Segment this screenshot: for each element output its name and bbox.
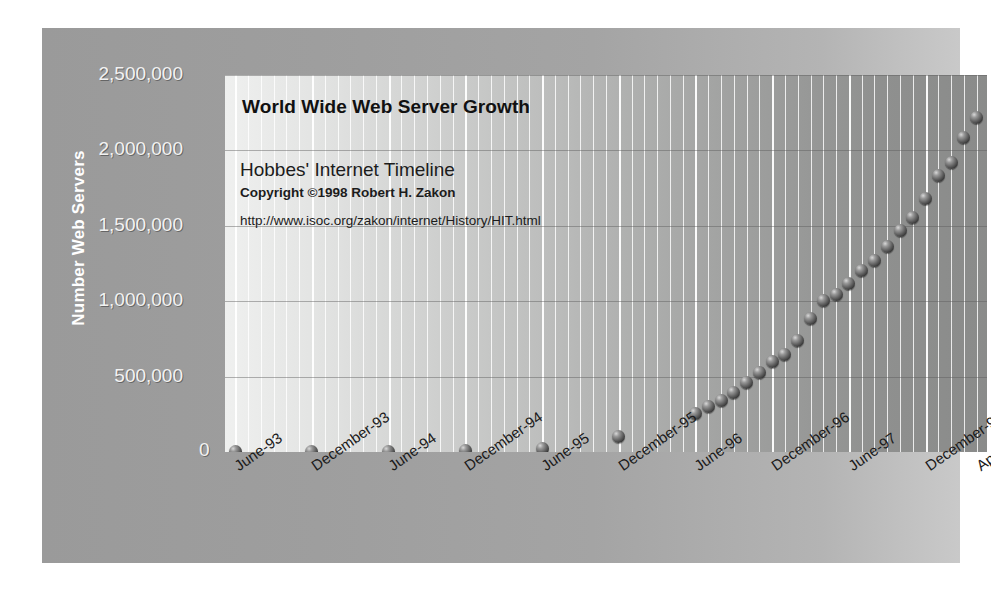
gridline-vertical [836,75,837,452]
gridline-vertical [593,75,594,452]
gridline-vertical [542,75,544,452]
gridline-vertical [350,75,351,452]
data-point [830,288,843,301]
annotation-copyright: Copyright ©1998 Robert H. Zakon [240,185,455,200]
gridline-vertical [338,75,339,452]
data-point [817,294,830,307]
data-point [868,254,881,267]
gridline-vertical [568,75,569,452]
gridline-vertical [900,75,901,452]
gridline-vertical [389,75,391,452]
gridline-vertical [440,75,441,452]
gridline-vertical [785,75,786,452]
gridline-vertical [798,75,799,452]
y-axis-tick-label: 1,000,000 [53,289,183,311]
gridline-vertical [811,75,812,452]
gridline-vertical [478,75,479,452]
y-axis-tick-label-zero: 0 [199,439,210,461]
data-point [229,445,242,452]
gridline-vertical [504,75,505,452]
gridline-vertical [414,75,415,452]
data-point [894,224,907,237]
gridline-vertical [619,75,621,452]
gridline-horizontal [225,75,987,76]
data-point [727,386,740,399]
gridline-vertical [376,75,377,452]
data-point [305,445,318,452]
gridline-vertical [657,75,658,452]
gridline-vertical [325,75,326,452]
data-point [715,394,728,407]
data-point [932,169,945,182]
gridline-vertical [632,75,633,452]
annotation-source-name: Hobbes' Internet Timeline [240,159,455,181]
gridline-horizontal [225,150,987,151]
gridline-vertical [235,75,237,452]
gridline-vertical [299,75,300,452]
data-point [778,348,791,361]
data-point [804,312,817,325]
gridline-vertical [938,75,939,452]
gridline-vertical [747,75,748,452]
data-point [881,240,894,253]
gridline-vertical [695,75,697,452]
gridline-vertical [670,75,671,452]
gridline-vertical [286,75,287,452]
data-point [766,355,779,368]
data-point [945,156,958,169]
gridline-vertical [401,75,402,452]
y-axis-tick-label: 2,000,000 [53,138,183,160]
plot-area [225,75,987,452]
gridline-vertical [683,75,684,452]
gridline-vertical [849,75,851,452]
gridline-vertical [363,75,364,452]
y-axis-tick-label: 500,000 [53,365,183,387]
data-point [740,376,753,389]
data-point [855,264,868,277]
gridline-vertical [491,75,492,452]
y-axis-tick-label: 2,500,000 [53,63,183,85]
y-axis-tick-label: 1,500,000 [53,214,183,236]
gridline-vertical [887,75,888,452]
gridline-vertical [248,75,249,452]
gridline-vertical [823,75,824,452]
annotation-url: http://www.isoc.org/zakon/internet/Histo… [240,213,541,228]
data-point [970,111,983,124]
gridline-vertical [453,75,454,452]
gridline-vertical [977,75,978,452]
data-point [919,192,932,205]
gridline-vertical [772,75,774,452]
gridline-vertical [261,75,262,452]
gridline-vertical [759,75,760,452]
data-point [536,442,549,452]
gridline-vertical [274,75,275,452]
data-point [382,445,395,452]
gridline-vertical [951,75,952,452]
data-point [791,334,804,347]
gridline-vertical [517,75,518,452]
data-point [702,400,715,413]
gridline-vertical [465,75,467,452]
chart-figure: Number Web Servers 2,500,0002,000,0001,5… [0,0,991,591]
gridline-vertical [529,75,530,452]
gridline-vertical [644,75,645,452]
gridline-vertical [913,75,914,452]
gridline-horizontal [225,301,987,302]
chart-frame: Number Web Servers 2,500,0002,000,0001,5… [42,28,960,563]
data-point [842,277,855,290]
gridline-vertical [926,75,928,452]
gridline-vertical [708,75,709,452]
gridline-vertical [606,75,607,452]
gridline-vertical [312,75,314,452]
data-point [459,444,472,452]
gridline-vertical [427,75,428,452]
y-axis-band: Number Web Servers 2,500,0002,000,0001,5… [42,28,183,563]
data-point [612,430,625,443]
gridline-vertical [580,75,581,452]
gridline-vertical [555,75,556,452]
data-point [957,131,970,144]
gridline-horizontal [225,377,987,378]
chart-title: World Wide Web Server Growth [242,96,530,118]
data-point [906,211,919,224]
